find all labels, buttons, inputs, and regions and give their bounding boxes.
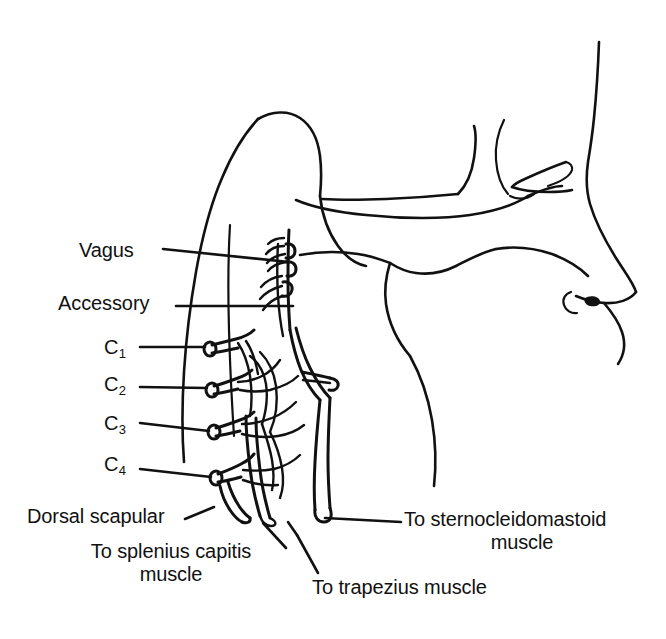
label-c4-subscript: 4 — [119, 463, 126, 478]
label-c1-subscript: 1 — [119, 346, 126, 361]
label-c3: C3 — [104, 412, 125, 435]
leader-c4 — [140, 469, 211, 477]
skull-and-jaw-outline — [258, 112, 588, 356]
label-c3-subscript: 3 — [119, 422, 126, 437]
label-c3-text: C — [104, 412, 118, 434]
label-c1-text: C — [104, 336, 118, 358]
label-sternocleidomastoid: To sternocleidomastoidmuscle — [404, 508, 640, 554]
leader-c3 — [140, 423, 209, 431]
leader-c2 — [140, 387, 207, 388]
label-c2: C2 — [104, 373, 125, 396]
label-c2-text: C — [104, 373, 118, 395]
label-vagus: Vagus — [79, 239, 134, 262]
label-trapezius: To trapezius muscle — [312, 576, 487, 599]
label-c4: C4 — [104, 453, 125, 476]
leader-trapezius-upper — [288, 522, 297, 535]
label-c1: C1 — [104, 336, 125, 359]
head-profile-outline — [563, 42, 636, 364]
label-c2-subscript: 2 — [119, 383, 126, 398]
label-scm-line1: To sternocleidomastoid — [404, 508, 606, 530]
label-c4-text: C — [104, 453, 118, 475]
leader-lines — [140, 249, 401, 573]
label-splenius-capitis: To splenius capitismuscle — [58, 540, 284, 586]
leader-trapezius — [297, 535, 318, 573]
label-splenius-line2: muscle — [140, 563, 203, 585]
label-accessory: Accessory — [58, 292, 149, 315]
cervical-plexus-nerves — [204, 330, 304, 526]
label-dorsal-scapular: Dorsal scapular — [27, 505, 164, 528]
leader-dorsal-scapular — [185, 507, 214, 519]
anatomical-figure: Vagus Accessory C1 C2 C3 C4 Dorsal scapu… — [0, 0, 666, 639]
label-scm-line2: muscle — [404, 531, 640, 554]
label-splenius-line1: To splenius capitis — [91, 540, 251, 562]
leader-sternocleidomastoid — [325, 518, 401, 522]
